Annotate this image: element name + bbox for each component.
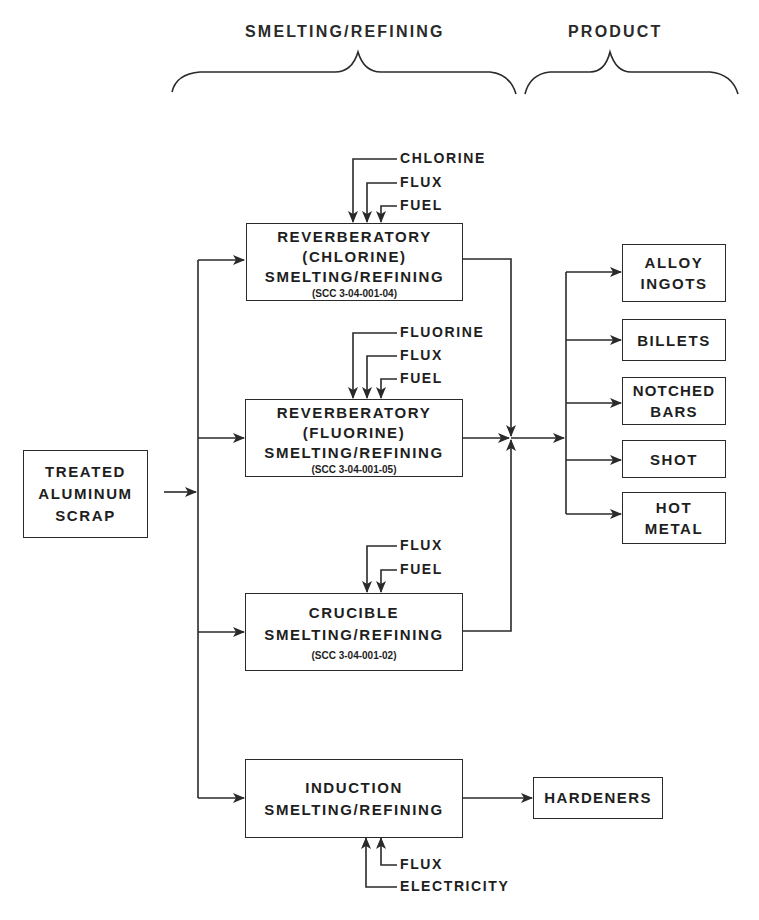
process-line: SMELTING/REFINING: [265, 267, 444, 287]
product-line: METAL: [645, 518, 704, 539]
input-flux: FLUX: [400, 174, 443, 190]
product-line: HOT: [656, 497, 692, 518]
product-alloy-ingots: ALLOY INGOTS: [622, 244, 726, 302]
feed-line: ALUMINUM: [38, 483, 132, 505]
feed-line: TREATED: [45, 461, 126, 483]
process-line: (FLUORINE): [303, 423, 406, 443]
brace-smelting: [172, 52, 516, 94]
product-line: SHOT: [650, 449, 698, 470]
reverberatory-chlorine-box: REVERBERATORY (CHLORINE) SMELTING/REFINI…: [246, 223, 463, 301]
product-line: BILLETS: [637, 330, 711, 351]
product-hardeners: HARDENERS: [533, 777, 663, 819]
feed-line: SCRAP: [55, 505, 116, 527]
process-line: CRUCIBLE: [309, 602, 399, 624]
header-smelting-refining: SMELTING/REFINING: [245, 23, 445, 41]
crucible-box: CRUCIBLE SMELTING/REFINING (SCC 3-04-001…: [245, 593, 463, 671]
process-line: SMELTING/REFINING: [264, 443, 443, 463]
input-flux: FLUX: [400, 347, 443, 363]
input-chlorine: CHLORINE: [400, 150, 486, 166]
input-fuel: FUEL: [400, 561, 443, 577]
input-flux: FLUX: [400, 537, 443, 553]
product-line: HARDENERS: [544, 787, 652, 809]
scc-code: (SCC 3-04-001-05): [311, 463, 396, 476]
product-shot: SHOT: [622, 440, 726, 478]
process-line: SMELTING/REFINING: [264, 624, 443, 646]
product-hot-metal: HOT METAL: [622, 492, 726, 544]
reverberatory-fluorine-box: REVERBERATORY (FLUORINE) SMELTING/REFINI…: [245, 399, 463, 477]
induction-box: INDUCTION SMELTING/REFINING: [245, 759, 463, 838]
input-flux: FLUX: [400, 856, 443, 872]
product-line: ALLOY: [645, 252, 704, 273]
treated-aluminum-scrap-box: TREATED ALUMINUM SCRAP: [23, 450, 148, 538]
product-billets: BILLETS: [622, 319, 726, 361]
scc-code: (SCC 3-04-001-02): [311, 649, 396, 662]
input-fluorine: FLUORINE: [400, 324, 484, 340]
input-fuel: FUEL: [400, 197, 443, 213]
scc-code: (SCC 3-04-001-04): [312, 287, 397, 300]
process-line: REVERBERATORY: [277, 403, 432, 423]
process-line: (CHLORINE): [302, 247, 406, 267]
product-notched-bars: NOTCHED BARS: [622, 377, 726, 425]
product-line: NOTCHED: [633, 380, 716, 401]
input-fuel: FUEL: [400, 370, 443, 386]
process-line: INDUCTION: [305, 777, 403, 799]
product-line: INGOTS: [640, 273, 707, 294]
product-line: BARS: [650, 401, 697, 422]
brace-product: [525, 52, 738, 94]
header-product: PRODUCT: [568, 23, 663, 41]
process-line: SMELTING/REFINING: [264, 799, 443, 821]
process-line: REVERBERATORY: [277, 227, 432, 247]
input-electricity: ELECTRICITY: [400, 878, 509, 894]
